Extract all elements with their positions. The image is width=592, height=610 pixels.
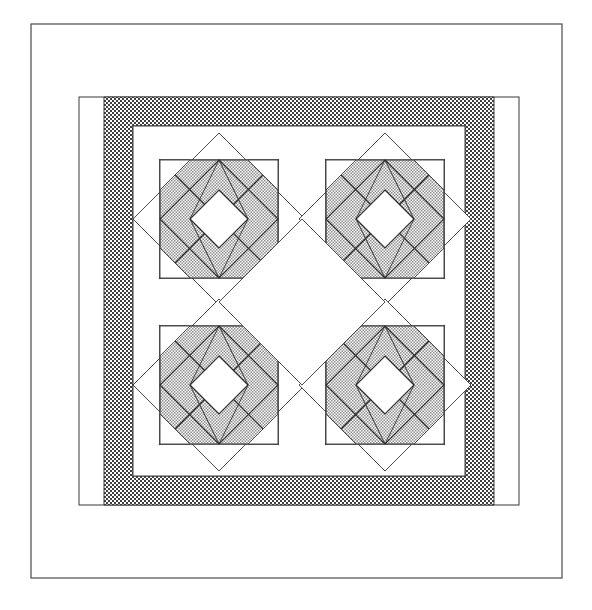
quilt-diagram-canvas: [0, 0, 592, 610]
quilt-svg: [0, 0, 592, 610]
